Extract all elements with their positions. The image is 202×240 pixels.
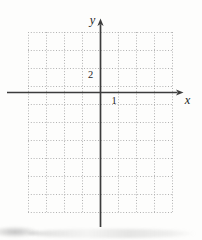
x-tick-label: 1 xyxy=(107,96,121,107)
x-axis-label: x xyxy=(181,94,194,107)
y-tick-label: 2 xyxy=(84,70,97,81)
axes xyxy=(7,24,178,227)
axis-arrows xyxy=(97,19,183,96)
grid-plot xyxy=(0,0,202,240)
y-axis-label: y xyxy=(86,14,99,27)
coordinate-grid-figure: y x 2 1 xyxy=(0,0,202,240)
